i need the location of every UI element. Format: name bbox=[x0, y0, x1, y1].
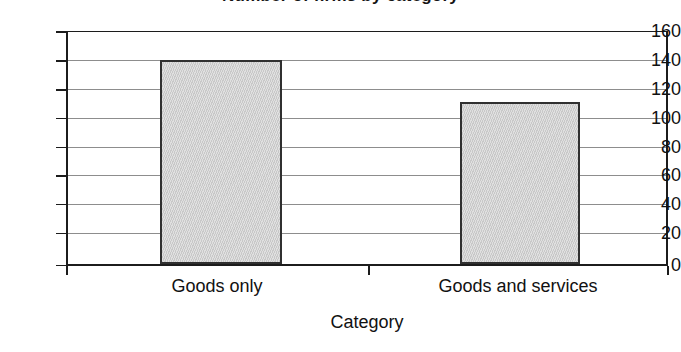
y-axis-label-120: 120 bbox=[629, 80, 681, 98]
y-axis-label-100: 100 bbox=[629, 109, 681, 127]
bar-chart: Number of firms by category 160 140 120 … bbox=[0, 0, 681, 352]
y-axis-label-160: 160 bbox=[629, 22, 681, 40]
y-axis-label-0: 0 bbox=[629, 256, 681, 274]
y-axis-label-140: 140 bbox=[629, 51, 681, 69]
y-axis-label-60: 60 bbox=[629, 166, 681, 184]
gridline-120 bbox=[68, 89, 666, 90]
y-tick-80 bbox=[56, 147, 66, 149]
x-axis-category-goods-and-services: Goods and services bbox=[368, 276, 668, 297]
x-axis-category-goods-only: Goods only bbox=[66, 276, 368, 297]
y-tick-40 bbox=[56, 204, 66, 206]
x-axis-title: Category bbox=[66, 312, 668, 333]
y-tick-140 bbox=[56, 60, 66, 62]
y-axis-label-80: 80 bbox=[629, 138, 681, 156]
y-tick-120 bbox=[56, 89, 66, 91]
x-tick-end bbox=[667, 266, 669, 275]
y-tick-60 bbox=[56, 175, 66, 177]
x-tick-start bbox=[66, 266, 68, 275]
gridline-140 bbox=[68, 60, 666, 61]
chart-title: Number of firms by category bbox=[0, 0, 681, 8]
y-axis-label-40: 40 bbox=[629, 195, 681, 213]
y-tick-20 bbox=[56, 233, 66, 235]
bar-goods-only[interactable] bbox=[160, 60, 282, 264]
x-tick-middle bbox=[368, 266, 370, 275]
y-tick-0 bbox=[56, 265, 66, 267]
y-tick-100 bbox=[56, 118, 66, 120]
y-tick-160 bbox=[56, 31, 66, 33]
y-axis-label-20: 20 bbox=[629, 224, 681, 242]
bar-goods-and-services[interactable] bbox=[460, 102, 580, 264]
plot-area bbox=[66, 31, 668, 266]
